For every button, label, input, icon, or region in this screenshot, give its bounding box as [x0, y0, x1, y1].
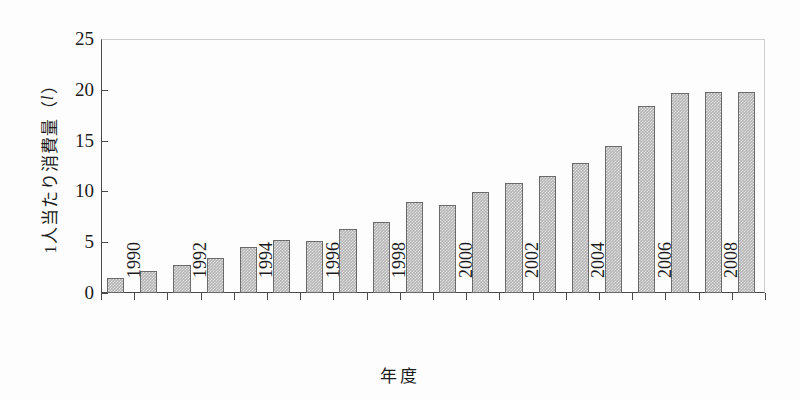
bar: [107, 278, 124, 293]
x-axis-tick-mark: [101, 293, 102, 300]
x-axis-tick-label: 1990: [125, 242, 143, 302]
x-axis-tick-label: 2004: [589, 242, 607, 302]
x-axis-tick-label: 1998: [390, 242, 408, 302]
bar: [373, 222, 390, 293]
x-axis-tick-label: 1992: [191, 242, 209, 302]
bar: [572, 163, 589, 293]
x-axis-tick-label: 2000: [457, 242, 475, 302]
bar: [439, 205, 456, 293]
y-axis-tick-label: 25: [0, 29, 94, 48]
bar: [705, 92, 722, 293]
bar-chart-figure: 1人当たり消費量（l） 0510152025 19901992199419961…: [0, 0, 800, 401]
x-axis-tick-label: 2002: [523, 242, 541, 302]
bar: [638, 106, 655, 293]
y-axis-tick-mark: [101, 293, 108, 294]
y-axis-tick-label: 5: [0, 232, 94, 251]
x-axis-tick-label: 1994: [257, 242, 275, 302]
bar: [173, 265, 190, 293]
x-axis-tick-mark: [367, 293, 368, 300]
x-axis-tick-mark: [632, 293, 633, 300]
bar: [505, 183, 522, 293]
y-axis-tick-label: 0: [0, 283, 94, 302]
y-axis-tick-label: 15: [0, 131, 94, 150]
x-axis-tick-mark: [699, 293, 700, 300]
bar: [240, 247, 257, 293]
x-axis-tick-mark: [566, 293, 567, 300]
y-axis-tick-labels: 0510152025: [0, 0, 94, 401]
x-axis-tick-mark: [300, 293, 301, 300]
x-axis-tick-label: 1996: [324, 242, 342, 302]
bar: [306, 241, 323, 293]
x-axis-tick-label: 2006: [656, 242, 674, 302]
x-axis-tick-mark: [499, 293, 500, 300]
y-axis-tick-label: 10: [0, 181, 94, 200]
x-axis-tick-mark: [433, 293, 434, 300]
x-axis-tick-mark: [167, 293, 168, 300]
x-axis-title: 年度: [0, 362, 800, 387]
x-axis-tick-mark: [765, 293, 766, 300]
x-axis-tick-mark: [234, 293, 235, 300]
x-axis-tick-label: 2008: [722, 242, 740, 302]
y-axis-tick-label: 20: [0, 80, 94, 99]
